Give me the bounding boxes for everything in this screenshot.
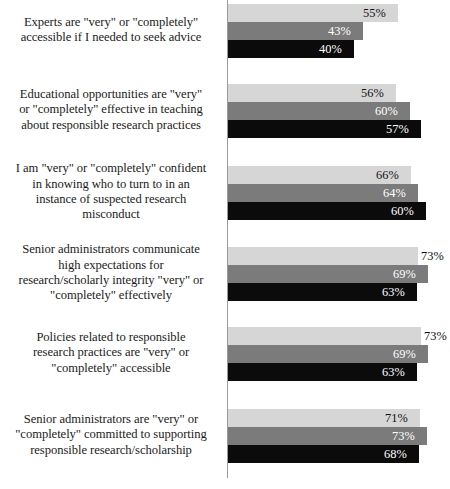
bar-row[interactable]: 73% bbox=[228, 427, 450, 445]
bar-value-label: 69% bbox=[393, 345, 416, 363]
category-label-line: accessible if I needed to seek advice bbox=[0, 30, 222, 45]
bar-row[interactable]: 63% bbox=[228, 283, 450, 301]
bar-value-label: 71% bbox=[385, 409, 408, 427]
bar-value-label: 73% bbox=[424, 327, 447, 345]
bar-stack: 66%64%60% bbox=[228, 166, 450, 220]
bar-row[interactable]: 55% bbox=[228, 4, 450, 22]
category-label: Educational opportunities are "very"or "… bbox=[0, 87, 222, 133]
category-label-line: "completely" effectively bbox=[0, 288, 222, 303]
bar-value-label: 55% bbox=[363, 4, 386, 22]
category-label-line: "completely" committed to supporting bbox=[0, 427, 222, 442]
bar-stack: 55%43%40% bbox=[228, 4, 450, 58]
bar-row[interactable]: 66% bbox=[228, 166, 450, 184]
bar-value-label: 57% bbox=[386, 120, 409, 138]
bar-value-label: 40% bbox=[319, 40, 342, 58]
bar-value-label: 64% bbox=[383, 184, 406, 202]
bar-group: Senior administrators are "very" or"comp… bbox=[0, 409, 450, 463]
bar-value-label: 63% bbox=[382, 283, 405, 301]
bar-value-label: 73% bbox=[392, 427, 415, 445]
bar-row[interactable]: 56% bbox=[228, 84, 450, 102]
bar-row[interactable]: 57% bbox=[228, 120, 450, 138]
bar-value-label: 60% bbox=[391, 202, 414, 220]
bar-group: I am "very" or "completely" confidentin … bbox=[0, 166, 450, 220]
bar-group: Policies related to responsibleresearch … bbox=[0, 327, 450, 381]
bar-stack: 71%73%68% bbox=[228, 409, 450, 463]
bar-stack: 73%69%63% bbox=[228, 247, 450, 301]
category-label: Senior administrators are "very" or"comp… bbox=[0, 412, 222, 458]
bar-stack: 73%69%63% bbox=[228, 327, 450, 381]
category-label-line: Senior administrators are "very" or bbox=[0, 412, 222, 427]
category-label-line: research/scholarly integrity "very" or bbox=[0, 273, 222, 288]
bar-group: Educational opportunities are "very"or "… bbox=[0, 84, 450, 138]
bar-row[interactable]: 64% bbox=[228, 184, 450, 202]
bar-series-1[interactable] bbox=[228, 247, 418, 265]
bar-row[interactable]: 63% bbox=[228, 363, 450, 381]
bar-row[interactable]: 73% bbox=[228, 327, 450, 345]
bar-row[interactable]: 71% bbox=[228, 409, 450, 427]
horizontal-bar-chart: Experts are "very" or "completely"access… bbox=[0, 0, 450, 489]
bar-group: Senior administrators communicatehigh ex… bbox=[0, 247, 450, 301]
bar-row[interactable]: 68% bbox=[228, 445, 450, 463]
category-label-line: I am "very" or "completely" confident bbox=[0, 161, 222, 176]
bar-value-label: 73% bbox=[421, 247, 444, 265]
category-label-line: about responsible research practices bbox=[0, 118, 222, 133]
category-label-line: research practices are "very" or bbox=[0, 345, 222, 360]
bar-value-label: 43% bbox=[328, 22, 351, 40]
bar-row[interactable]: 43% bbox=[228, 22, 450, 40]
bar-value-label: 56% bbox=[361, 84, 384, 102]
category-label-line: misconduct bbox=[0, 207, 222, 222]
bar-row[interactable]: 40% bbox=[228, 40, 450, 58]
category-label-line: instance of suspected research bbox=[0, 192, 222, 207]
bar-group: Experts are "very" or "completely"access… bbox=[0, 4, 450, 58]
bar-row[interactable]: 73% bbox=[228, 247, 450, 265]
bar-row[interactable]: 69% bbox=[228, 265, 450, 283]
bar-row[interactable]: 69% bbox=[228, 345, 450, 363]
category-label-line: "completely" accessible bbox=[0, 361, 222, 376]
category-label: I am "very" or "completely" confidentin … bbox=[0, 161, 222, 223]
bar-value-label: 69% bbox=[393, 265, 416, 283]
bar-series-1[interactable] bbox=[228, 327, 421, 345]
category-label-line: high expectations for bbox=[0, 258, 222, 273]
bar-value-label: 68% bbox=[384, 445, 407, 463]
bar-row[interactable]: 60% bbox=[228, 202, 450, 220]
bar-stack: 56%60%57% bbox=[228, 84, 450, 138]
category-axis-line bbox=[227, 0, 228, 478]
category-label-line: responsible research/scholarship bbox=[0, 443, 222, 458]
category-label-line: Educational opportunities are "very" bbox=[0, 87, 222, 102]
category-label: Senior administrators communicatehigh ex… bbox=[0, 242, 222, 304]
category-label-line: Senior administrators communicate bbox=[0, 242, 222, 257]
category-label: Experts are "very" or "completely"access… bbox=[0, 15, 222, 46]
category-label: Policies related to responsibleresearch … bbox=[0, 330, 222, 376]
bar-row[interactable]: 60% bbox=[228, 102, 450, 120]
bar-value-label: 60% bbox=[375, 102, 398, 120]
category-label-line: or "completely" effective in teaching bbox=[0, 102, 222, 117]
category-label-line: in knowing who to turn to in an bbox=[0, 177, 222, 192]
category-label-line: Experts are "very" or "completely" bbox=[0, 15, 222, 30]
category-label-line: Policies related to responsible bbox=[0, 330, 222, 345]
bar-value-label: 63% bbox=[382, 363, 405, 381]
bar-value-label: 66% bbox=[376, 166, 399, 184]
